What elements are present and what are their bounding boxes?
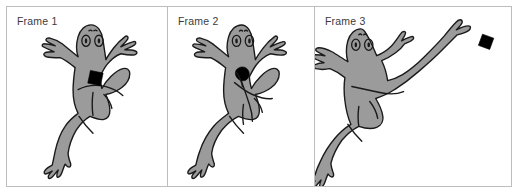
frog-illustration-frame-2 [168,7,314,186]
frog-right-pupil [98,38,101,43]
frog-left-pupil [85,38,88,43]
frog-illustration-frame-3 [315,7,511,186]
frog-left-pupil [355,42,358,47]
frog-figure [315,20,470,186]
fly-square-frame-1 [88,70,103,85]
frame-panel-1: Frame 1 [7,7,167,186]
frog-belly-crease [243,104,244,124]
frog-right-pupil [248,38,251,43]
frog-body-shape [188,25,287,178]
frog-illustration-frame-1 [7,7,167,186]
frog-figure [188,25,287,178]
frame-panel-2: Frame 2 [167,7,314,186]
frog-belly-crease [92,93,93,116]
frog-figure [42,25,137,179]
frog-leg-crease [230,116,244,133]
frog-body-shape [42,25,137,179]
frog-left-pupil [235,38,238,43]
frog-belly-crease [358,106,359,126]
frog-body-shape [315,20,470,186]
frame-panel-3: Frame 3 [314,7,511,186]
frog-right-pupil [367,42,370,47]
fly-square-frame-3 [478,34,493,49]
frame-sequence-figure: Frame 1 Frame 2 [6,6,512,187]
